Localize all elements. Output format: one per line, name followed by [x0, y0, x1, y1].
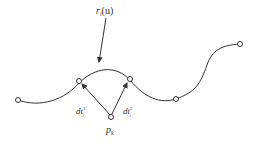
point-p-k — [109, 115, 114, 120]
vector-dt1-label: dt1i — [76, 106, 86, 118]
curve-pointer-arrow — [99, 18, 106, 62]
point-label: pk — [105, 124, 114, 136]
curve-label: ri(u) — [96, 5, 113, 17]
curve-r-i-u — [18, 44, 240, 103]
control-point — [174, 97, 179, 102]
control-point — [238, 42, 243, 47]
diagram-canvas: ri(u) dt1i dt2i pk — [0, 0, 253, 143]
control-point — [16, 98, 21, 103]
control-point — [77, 79, 82, 84]
vector-dt2-label: dt2i — [123, 106, 133, 118]
control-point — [128, 77, 133, 82]
vector-dt1-arrow — [82, 84, 111, 116]
